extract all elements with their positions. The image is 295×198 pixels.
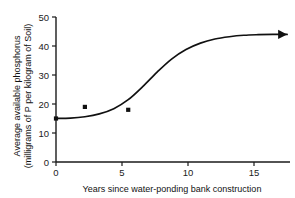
y-axis: 50 40 30 20 10 0 (38, 12, 56, 168)
y-tick-label-50: 50 (38, 12, 49, 23)
y-tick-label-10: 10 (38, 128, 49, 139)
data-point (54, 116, 58, 120)
x-tick-label-5: 5 (119, 167, 124, 178)
x-axis: 0 5 10 15 Years since water-ponding bank… (53, 162, 290, 194)
phosphorus-trend-chart: Average available phosphorus (milligrams… (0, 0, 295, 198)
y-tick-label-20: 20 (38, 99, 49, 110)
chart-figure: Average available phosphorus (milligrams… (0, 0, 295, 198)
x-tick-label-15: 15 (249, 167, 260, 178)
y-axis-title-line2: (milligrams of P per kilogram of Soil) (23, 24, 33, 168)
y-tick-label-0: 0 (44, 157, 49, 168)
trend-arrow-head (278, 30, 287, 39)
data-series-layer (54, 30, 287, 121)
x-tick-label-0: 0 (53, 167, 58, 178)
trend-line (56, 34, 287, 118)
y-tick-label-40: 40 (38, 41, 49, 52)
x-tick-label-10: 10 (183, 167, 194, 178)
x-axis-title: Years since water-ponding bank construct… (83, 184, 262, 194)
y-tick-label-30: 30 (38, 70, 49, 81)
data-point (126, 108, 130, 112)
y-axis-title-group: Average available phosphorus (milligrams… (12, 24, 33, 168)
data-point (83, 105, 87, 109)
y-axis-title-line1: Average available phosphorus (12, 35, 22, 156)
